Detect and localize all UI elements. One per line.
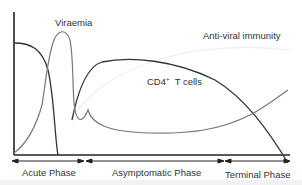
antiviral-immunity-label: Anti-viral immunity	[203, 31, 281, 41]
cd4-prefix: CD4	[147, 76, 166, 87]
phase-label-terminal: Terminal Phase	[225, 170, 290, 180]
viraemia-label: Viraemia	[55, 18, 92, 28]
cd4-label: CD4+ T cells	[147, 77, 202, 87]
cd4-curve	[14, 43, 288, 163]
bottom-band	[0, 180, 302, 185]
cd4-suffix: T cells	[175, 76, 202, 87]
diagram-canvas: Viraemia Anti-viral immunity CD4+ T cell…	[0, 0, 302, 185]
phase-label-acute: Acute Phase	[22, 168, 76, 178]
phase-arrows	[12, 159, 290, 163]
diagram-svg	[0, 0, 302, 185]
phase-label-asymptomatic: Asymptomatic Phase	[112, 168, 201, 178]
cd4-superscript: +	[166, 76, 170, 82]
